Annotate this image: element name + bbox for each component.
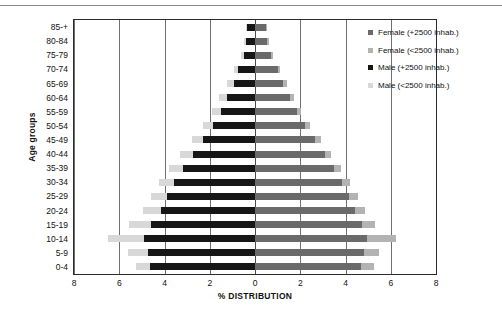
x-tick-label: 6 (376, 278, 406, 288)
bar-segment-female-large (255, 38, 267, 45)
pyramid-row (74, 249, 436, 256)
legend-item[interactable]: Male (<2500 inhab.) (368, 77, 500, 95)
bar-segment-female-large (255, 151, 325, 158)
bar-segment-female-large (255, 193, 349, 200)
y-tick-label: 20-24 (18, 207, 68, 215)
y-tick-label: 5-9 (18, 249, 68, 257)
bar-segment-female-large (255, 52, 271, 59)
bar-segment-female-large (255, 263, 361, 270)
pyramid-row (74, 122, 436, 129)
y-tick-label: 0-4 (18, 263, 68, 271)
y-tick-label: 50-54 (18, 122, 68, 130)
bar-segment-female-small (367, 235, 396, 242)
bar-segment-female-small (361, 263, 373, 270)
y-tick-label: 45-49 (18, 136, 68, 144)
y-tick-label: 65-69 (18, 80, 68, 88)
bar-segment-female-small (364, 249, 380, 256)
pyramid-row (74, 165, 436, 172)
bar-segment-female-large (255, 179, 342, 186)
y-tick-label: 40-44 (18, 150, 68, 158)
bar-segment-male-small (159, 179, 174, 186)
bar-segment-male-large (213, 122, 255, 129)
legend-item-label: Male (<2500 inhab.) (378, 81, 449, 90)
x-tick-label: 8 (421, 278, 451, 288)
bar-segment-male-small (180, 151, 192, 158)
y-tick-label: 25-29 (18, 192, 68, 200)
bar-segment-female-large (255, 66, 278, 73)
bar-segment-male-small (234, 66, 239, 73)
bar-segment-male-large (227, 94, 255, 101)
legend-item-label: Male (+2500 inhab.) (378, 63, 449, 72)
bar-segment-female-small (315, 136, 321, 143)
bar-segment-female-small (334, 165, 341, 172)
pyramid-row (74, 235, 436, 242)
population-pyramid-figure: Age groups 85-+80-8475-7970-7465-6960-64… (0, 0, 502, 313)
bar-segment-male-large (167, 193, 255, 200)
bar-segment-male-large (183, 165, 255, 172)
legend-item[interactable]: Male (+2500 inhab.) (368, 59, 500, 77)
y-tick-label: 70-74 (18, 65, 68, 73)
pyramid-row (74, 108, 436, 115)
legend-swatch-icon (368, 30, 373, 35)
bar-segment-male-small (143, 207, 161, 214)
bar-segment-male-large (244, 52, 255, 59)
bar-segment-female-large (255, 207, 355, 214)
bar-segment-male-large (150, 263, 255, 270)
x-tick-label: 4 (331, 278, 361, 288)
x-axis-tick-labels: 864202468 (0, 278, 502, 290)
bar-segment-male-small (244, 38, 246, 45)
bar-segment-female-small (271, 52, 273, 59)
bar-segment-female-large (255, 24, 266, 31)
pyramid-row (74, 193, 436, 200)
x-tick-label: 2 (285, 278, 315, 288)
bar-segment-male-small (129, 221, 150, 228)
bar-segment-male-large (246, 38, 255, 45)
chart-legend: Female (+2500 inhab.)Female (<2500 inhab… (368, 24, 500, 94)
bar-segment-female-small (266, 24, 267, 31)
bar-segment-female-large (255, 221, 362, 228)
x-tick-label: 4 (150, 278, 180, 288)
bar-segment-female-large (255, 80, 283, 87)
bar-segment-female-large (255, 249, 364, 256)
bar-segment-female-small (290, 94, 294, 101)
bar-segment-female-small (267, 38, 268, 45)
bar-segment-male-small (246, 24, 247, 31)
bar-segment-female-small (342, 179, 350, 186)
pyramid-row (74, 94, 436, 101)
legend-item-label: Female (<2500 inhab.) (378, 46, 459, 55)
bar-segment-male-small (219, 94, 227, 101)
bar-segment-male-large (203, 136, 255, 143)
legend-item-label: Female (+2500 inhab.) (378, 28, 459, 37)
bar-segment-male-small (227, 80, 234, 87)
bar-segment-female-small (349, 193, 358, 200)
x-tick-label: 2 (195, 278, 225, 288)
x-tick-label: 0 (240, 278, 270, 288)
legend-item[interactable]: Female (+2500 inhab.) (368, 24, 500, 42)
bar-segment-male-small (203, 122, 213, 129)
bar-segment-male-large (238, 66, 255, 73)
x-tick-label: 6 (104, 278, 134, 288)
y-tick-label: 10-14 (18, 235, 68, 243)
bar-segment-female-small (283, 80, 286, 87)
y-tick-label: 60-64 (18, 94, 68, 102)
bar-segment-male-large (221, 108, 255, 115)
pyramid-row (74, 179, 436, 186)
legend-swatch-icon (368, 48, 373, 53)
y-tick-label: 80-84 (18, 37, 68, 45)
bar-segment-female-large (255, 122, 305, 129)
x-axis-title: % DISTRIBUTION (73, 291, 437, 301)
legend-item[interactable]: Female (<2500 inhab.) (368, 42, 500, 60)
bar-segment-male-large (151, 221, 255, 228)
bar-segment-male-large (174, 179, 255, 186)
bar-segment-female-small (278, 66, 280, 73)
pyramid-row (74, 207, 436, 214)
bar-segment-male-large (234, 80, 255, 87)
bar-segment-female-small (362, 221, 374, 228)
bar-segment-female-large (255, 136, 315, 143)
bar-segment-male-small (128, 249, 147, 256)
pyramid-row (74, 263, 436, 270)
bar-segment-female-large (255, 165, 334, 172)
bar-segment-male-large (193, 151, 255, 158)
y-tick-label: 75-79 (18, 51, 68, 59)
x-tick-label: 8 (59, 278, 89, 288)
